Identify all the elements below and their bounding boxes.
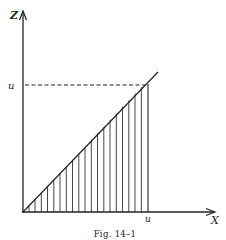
z-tick-label-u: u <box>8 80 14 91</box>
hatched-region <box>29 80 141 212</box>
figure-caption: Fig. 14–1 <box>94 229 137 239</box>
x-tick-label-u: u <box>145 214 151 224</box>
diagonal-line <box>23 72 158 212</box>
figure-14-1: Z X u u Fig. 14–1 <box>0 0 226 240</box>
x-axis-label: X <box>210 214 220 227</box>
z-axis-label: Z <box>9 9 19 22</box>
